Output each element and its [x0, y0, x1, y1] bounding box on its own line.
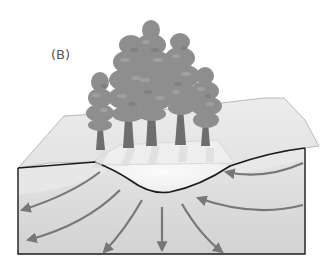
wetland-block-diagram: [0, 0, 321, 274]
panel-label: (B): [51, 47, 70, 62]
